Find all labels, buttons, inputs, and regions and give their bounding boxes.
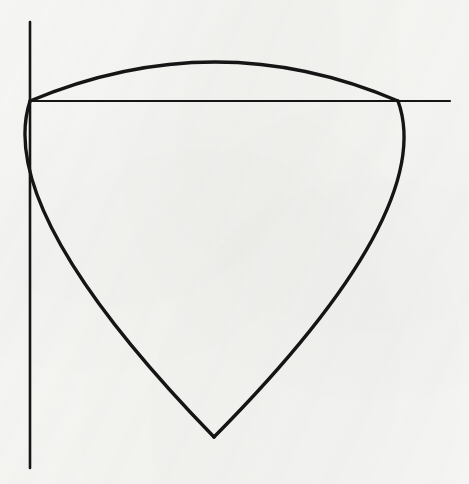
top-arc xyxy=(30,62,398,101)
right-arc xyxy=(214,101,404,437)
left-arc xyxy=(25,101,214,437)
ink-layer xyxy=(25,22,450,468)
geometric-figure-svg xyxy=(0,0,469,484)
figure-canvas xyxy=(0,0,469,484)
